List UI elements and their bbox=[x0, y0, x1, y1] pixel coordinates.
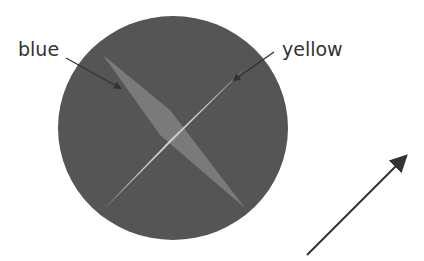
yellow-label: yellow bbox=[282, 38, 343, 60]
diagram-canvas bbox=[0, 0, 424, 261]
direction-arrow bbox=[307, 157, 405, 255]
blue-label: blue bbox=[18, 38, 59, 60]
